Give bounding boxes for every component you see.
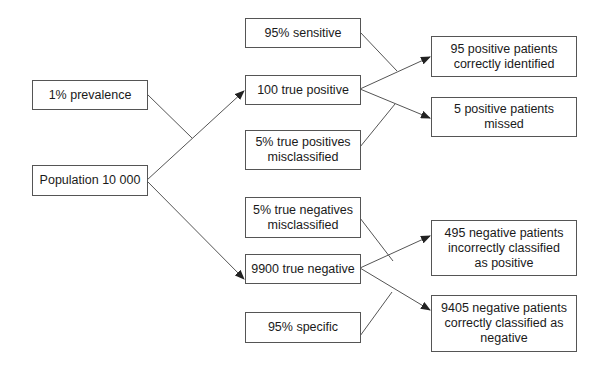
node-tn-misclassified: 5% true negatives misclassified	[245, 197, 361, 238]
node-neg-incorrect: 495 negative patients incorrectly classi…	[431, 220, 577, 276]
node-population: Population 10 000	[32, 165, 148, 196]
node-prevalence: 1% prevalence	[32, 80, 148, 110]
node-label: 95% specific	[268, 320, 338, 335]
node-label: 5 positive patients missed	[449, 102, 559, 132]
arrow-tn-to-correct	[360, 268, 430, 310]
node-neg-correct: 9405 negative patients correctly classif…	[431, 295, 577, 352]
node-label: 495 negative patients incorrectly classi…	[444, 226, 564, 271]
line-sensitive-modifier	[360, 32, 397, 71]
arrow-tp-to-missed	[360, 89, 430, 118]
arrow-tp-to-identified	[360, 57, 430, 89]
arrow-population-to-true-negative	[147, 181, 244, 279]
line-tn-misclassified-modifier	[360, 218, 393, 261]
arrow-population-to-true-positive	[147, 91, 244, 180]
node-pos-missed: 5 positive patients missed	[431, 97, 577, 137]
node-label: 100 true positive	[257, 83, 349, 98]
line-specific-modifier	[360, 292, 392, 336]
arrow-tn-to-incorrect	[360, 236, 430, 268]
node-true-negative: 9900 true negative	[245, 254, 361, 284]
line-tp-misclassified-modifier	[360, 104, 395, 147]
node-sensitive: 95% sensitive	[245, 18, 361, 48]
node-label: Population 10 000	[40, 173, 141, 188]
node-label: 9900 true negative	[251, 262, 355, 277]
node-label: 5% true negatives misclassified	[250, 203, 356, 233]
node-specific: 95% specific	[245, 312, 361, 343]
node-label: 95 positive patients correctly identifie…	[436, 42, 572, 72]
node-label: 9405 negative patients correctly classif…	[438, 301, 570, 346]
node-tp-misclassified: 5% true positives misclassified	[245, 130, 361, 170]
node-pos-identified: 95 positive patients correctly identifie…	[431, 36, 577, 77]
node-label: 95% sensitive	[264, 26, 341, 41]
node-label: 5% true positives misclassified	[250, 135, 356, 165]
node-label: 1% prevalence	[49, 88, 132, 103]
node-true-positive: 100 true positive	[245, 75, 361, 105]
line-prevalence-modifier	[147, 94, 192, 138]
